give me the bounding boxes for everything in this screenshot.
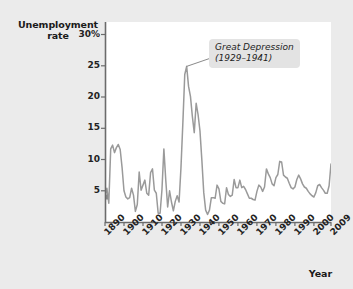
x-tick-label: 1980 (273, 212, 298, 237)
x-tick-label: 1920 (159, 212, 184, 237)
x-tick-label: 1960 (235, 212, 260, 237)
x-tick-label: 1900 (121, 212, 146, 237)
x-tick-label: 1910 (140, 212, 165, 237)
x-tick-label: 1930 (178, 212, 203, 237)
x-tick-label: 1950 (216, 212, 241, 237)
great-depression-annotation: Great Depression (1929–1941) (209, 39, 300, 68)
x-axis-title: Year (296, 268, 332, 279)
x-tick-label: 1890 (102, 212, 127, 237)
x-tick-label: 1970 (254, 212, 279, 237)
x-tick-label: 1990 (292, 212, 317, 237)
x-tick-label: 1940 (197, 212, 222, 237)
